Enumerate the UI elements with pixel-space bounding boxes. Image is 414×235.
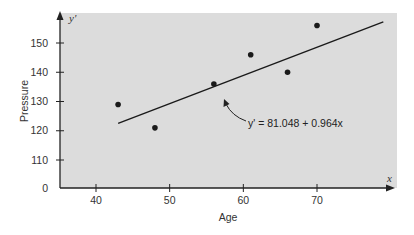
data-point: [285, 69, 291, 75]
data-point: [211, 81, 217, 87]
y-tick-label: 150: [30, 37, 48, 49]
y-tick-label: 110: [31, 154, 48, 166]
data-point: [248, 52, 254, 58]
x-axis-title: Age: [219, 211, 238, 223]
data-point: [115, 102, 121, 108]
y-axis-title: Pressure: [18, 80, 30, 122]
y-tick-label: 120: [30, 124, 48, 136]
data-point: [152, 125, 158, 131]
plot-background: [60, 13, 397, 188]
y-ticks: 0110120130140150: [30, 37, 64, 194]
x-tick-label: 50: [164, 194, 176, 206]
y-tick-label: 140: [30, 66, 48, 78]
scatter-plot: y' x 0110120130140150 40506070 Pressure …: [0, 0, 414, 235]
y-tick-label: 0: [42, 182, 48, 194]
x-axis-symbol: x: [386, 172, 392, 184]
x-tick-label: 60: [237, 194, 249, 206]
x-tick-label: 40: [90, 194, 102, 206]
data-point: [314, 23, 320, 29]
y-axis-symbol: y': [68, 12, 77, 24]
y-tick-label: 130: [30, 95, 48, 107]
x-tick-label: 70: [311, 194, 323, 206]
regression-equation: y' = 81.048 + 0.964x: [248, 117, 344, 129]
